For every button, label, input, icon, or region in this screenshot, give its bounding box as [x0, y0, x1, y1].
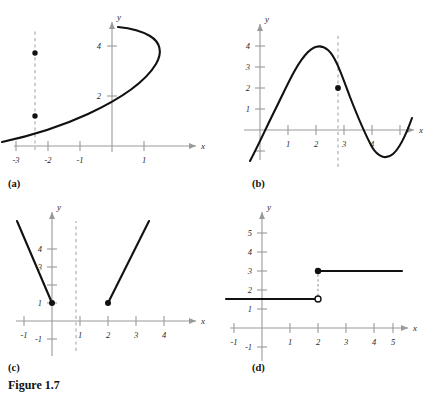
y-tick-label-d-3: 3	[247, 266, 252, 276]
x-tick-label-d-5: 5	[391, 337, 395, 347]
x-axis-name-c: x	[200, 316, 205, 326]
y-axis-arrowhead-d	[259, 212, 265, 219]
x-axis-arrowhead-a	[189, 143, 196, 149]
panel-label-d: (d)	[252, 362, 265, 373]
y-tick-label-c-1: 1	[38, 298, 42, 308]
x-axis-name-a: x	[200, 141, 205, 151]
y-tick-label-b-2: 3	[245, 62, 250, 72]
panel-a-svg: -3 -2 -1 1 2 4 x y	[0, 0, 218, 200]
curve-b-cubic-wave	[250, 46, 412, 161]
panel-label-c: (c)	[8, 362, 20, 373]
marked-point-d-open-endpoint	[315, 296, 321, 302]
y-tick-label-b-1: 2	[246, 83, 251, 93]
y-tick-label-d-5: 5	[248, 228, 252, 238]
figure-1-7: -3 -2 -1 1 2 4 x y (a)	[0, 0, 436, 404]
panel-label-b: (b)	[252, 178, 265, 189]
panel-b-graph: 1 2 3 4 1 2 3 4 x y	[218, 0, 436, 200]
y-tick-label-c-4: 4	[38, 244, 43, 254]
marked-point-b	[335, 85, 341, 91]
panel-a-graph: -3 -2 -1 1 2 4 x y	[0, 0, 218, 200]
y-tick-label-d-0: -1	[245, 342, 252, 352]
panel-d-svg: -1 1 2 3 4 5 -1 1 2 3 4 5 x y	[218, 196, 436, 404]
y-tick-label-d-1: 1	[248, 304, 252, 314]
y-axis-name-c: y	[56, 202, 61, 212]
x-tick-label-a-3: 1	[142, 155, 146, 165]
marked-point-a-lower	[32, 113, 37, 118]
y-axis-arrowhead-c	[49, 212, 55, 219]
x-tick-label-d-1: 1	[288, 337, 292, 347]
y-tick-label-c-0: -1	[35, 334, 42, 344]
marked-point-d-closed-endpoint	[315, 268, 321, 274]
marked-point-a-upper	[32, 50, 37, 55]
curve-c-left-segment	[17, 221, 52, 303]
marked-point-c-right-endpoint	[105, 300, 111, 306]
x-tick-label-c-4: 4	[162, 330, 167, 340]
panel-c-svg: -1 1 2 3 4 -1 1 3 4 x y	[0, 196, 218, 404]
x-tick-label-b-1: 2	[314, 139, 319, 149]
x-axis-arrowhead-c	[189, 318, 196, 324]
panel-b-svg: 1 2 3 4 1 2 3 4 x y	[218, 0, 436, 200]
y-axis-arrowhead-b	[257, 24, 263, 31]
x-axis-arrowhead-d	[401, 325, 408, 331]
y-tick-label-b-0: 1	[246, 104, 250, 114]
x-tick-label-a-2: -1	[76, 155, 83, 165]
x-tick-label-d-0: -1	[230, 337, 237, 347]
x-tick-label-d-4: 4	[372, 337, 377, 347]
x-tick-label-c-1: 1	[78, 330, 82, 340]
x-tick-label-c-2: 2	[106, 330, 111, 340]
curve-c-right-segment	[108, 221, 149, 303]
y-axis-name-b: y	[264, 14, 269, 24]
y-tick-label-a-0: 2	[97, 91, 102, 101]
x-tick-label-b-0: 1	[286, 139, 290, 149]
y-axis-name-a: y	[116, 12, 121, 22]
y-axis-arrowhead-a	[109, 22, 115, 29]
y-tick-label-d-4: 4	[248, 247, 253, 257]
y-tick-label-d-2: 2	[248, 285, 253, 295]
x-axis-name-b: x	[418, 125, 423, 135]
x-tick-label-b-2: 3	[341, 139, 346, 149]
y-axis-name-d: y	[266, 202, 271, 212]
panel-d-graph: -1 1 2 3 4 5 -1 1 2 3 4 5 x y	[218, 196, 436, 404]
figure-caption: Figure 1.7	[8, 378, 60, 393]
x-axis-name-d: x	[412, 323, 417, 333]
x-tick-label-c-3: 3	[133, 330, 138, 340]
x-tick-label-a-0: -3	[12, 155, 19, 165]
x-tick-label-d-3: 3	[343, 337, 348, 347]
x-tick-label-c-0: -1	[20, 330, 27, 340]
marked-point-c-left-endpoint	[49, 300, 55, 306]
panel-c-graph: -1 1 2 3 4 -1 1 3 4 x y	[0, 196, 218, 404]
x-tick-label-d-2: 2	[316, 337, 321, 347]
panel-label-a: (a)	[8, 178, 20, 189]
y-tick-label-b-3: 4	[246, 41, 251, 51]
y-tick-label-a-1: 4	[97, 41, 102, 51]
x-tick-label-a-1: -2	[44, 155, 52, 165]
curve-a-sideways-parabola	[2, 27, 160, 142]
